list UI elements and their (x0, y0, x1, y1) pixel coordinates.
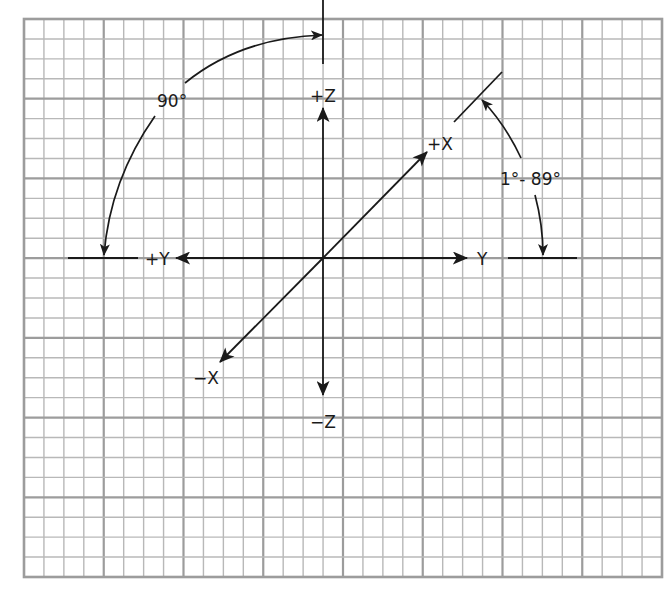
neg-x-label: −X (193, 368, 219, 388)
graph-paper-grid (24, 19, 662, 577)
neg-y-label: Y (476, 249, 488, 269)
pos-z-label: +Z (310, 86, 336, 106)
pos-x-label: +X (427, 134, 453, 154)
ninety-degree-label: 90° (157, 91, 187, 111)
neg-z-label: −Z (310, 412, 336, 432)
neg-x-axis-arrow (220, 258, 323, 362)
ninety-degree-arc-lower (104, 116, 155, 255)
acute-angle-label: 1°- 89° (500, 169, 561, 189)
pos-y-label: +Y (145, 249, 170, 269)
axis-diagram: 90° 1°- 89° +Z −Z +Y Y +X −X (0, 0, 667, 593)
pos-x-axis-arrow (323, 152, 427, 258)
